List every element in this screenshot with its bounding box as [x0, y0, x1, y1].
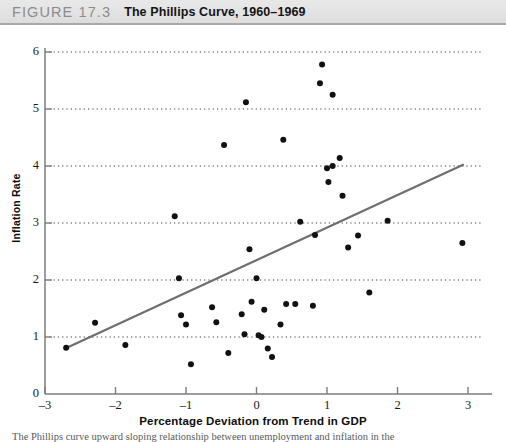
y-tick-label-1: 1 — [17, 329, 39, 344]
data-point — [340, 193, 346, 199]
x-tick-label--3: –3 — [32, 398, 58, 413]
data-point — [92, 320, 98, 326]
data-point — [221, 142, 227, 148]
data-point — [63, 345, 69, 351]
data-point — [242, 331, 248, 337]
data-point — [330, 163, 336, 169]
chart-region: 0123456 –3–2–10123 Inflation Rate — [0, 26, 506, 416]
data-point — [249, 299, 255, 305]
data-point — [345, 245, 351, 251]
data-point — [209, 304, 215, 310]
figure-caption: The Phillips curve upward sloping relati… — [12, 430, 496, 442]
figure-number: FIGURE 17.3 — [12, 4, 111, 20]
data-point — [310, 303, 316, 309]
x-tick-label-2: 2 — [385, 398, 411, 413]
header-divider-rule — [0, 23, 506, 25]
y-tick-label-5: 5 — [17, 101, 39, 116]
figure-title: The Phillips Curve, 1960–1969 — [124, 5, 305, 19]
data-point — [337, 155, 343, 161]
y-axis-title: Inflation Rate — [10, 148, 22, 268]
data-point — [330, 92, 336, 98]
data-point — [325, 179, 331, 185]
data-point — [213, 319, 219, 325]
data-point — [297, 219, 303, 225]
scatter-plot-canvas — [0, 26, 506, 416]
data-point — [188, 361, 194, 367]
data-point — [122, 342, 128, 348]
x-tick-label-0: 0 — [244, 398, 270, 413]
data-point — [312, 232, 318, 238]
data-point — [280, 137, 286, 143]
phillips-curve-trendline — [67, 165, 463, 348]
x-tick-label-3: 3 — [455, 398, 481, 413]
data-point — [292, 301, 298, 307]
x-tick-label--2: –2 — [103, 398, 129, 413]
data-point — [178, 312, 184, 318]
data-point — [324, 165, 330, 171]
y-tick-label-6: 6 — [17, 44, 39, 59]
data-point — [459, 240, 465, 246]
figure-header-band: FIGURE 17.3 The Phillips Curve, 1960–196… — [0, 0, 506, 23]
data-point — [254, 275, 260, 281]
data-point — [183, 321, 189, 327]
data-point — [385, 218, 391, 224]
data-point — [283, 301, 289, 307]
data-point — [225, 350, 231, 356]
data-point — [246, 246, 252, 252]
data-point — [258, 334, 264, 340]
data-point — [261, 307, 267, 313]
data-point — [176, 275, 182, 281]
data-point — [277, 321, 283, 327]
data-point — [243, 99, 249, 105]
data-point — [366, 290, 372, 296]
data-point — [355, 233, 361, 239]
data-point — [172, 213, 178, 219]
x-axis-title: Percentage Deviation from Trend in GDP — [0, 415, 506, 427]
x-tick-label--1: –1 — [173, 398, 199, 413]
x-tick-label-1: 1 — [314, 398, 340, 413]
data-point — [319, 62, 325, 68]
y-tick-label-2: 2 — [17, 272, 39, 287]
data-point — [317, 80, 323, 86]
data-point — [269, 354, 275, 360]
gridlines-group — [45, 52, 481, 337]
data-point — [239, 311, 245, 317]
axis-lines-group — [45, 48, 492, 394]
data-point — [265, 345, 271, 351]
trendline-group — [67, 165, 463, 348]
